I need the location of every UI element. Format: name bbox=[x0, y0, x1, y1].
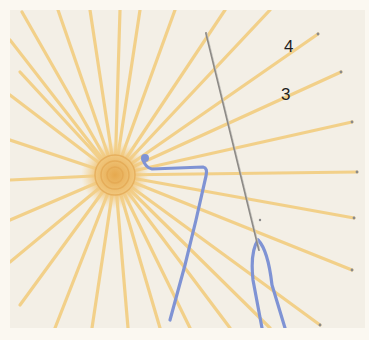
step-label-3: 3 bbox=[281, 85, 290, 105]
woven-center bbox=[81, 141, 149, 209]
spoke-end-dots bbox=[259, 33, 359, 327]
stitch-illustration bbox=[10, 10, 365, 328]
step-label-4: 4 bbox=[284, 37, 293, 57]
embroidery-photo: 4 3 bbox=[10, 10, 365, 328]
needle bbox=[206, 33, 260, 250]
thread-knot bbox=[141, 154, 149, 162]
